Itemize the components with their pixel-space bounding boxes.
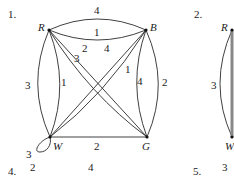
vertex-g <box>145 135 148 138</box>
weight-r-w-inner: 1 <box>61 76 67 88</box>
weight-b-w-1: 4 <box>104 42 110 54</box>
figure-4: 4. 2 4 <box>8 161 94 176</box>
figure-5: 5. 3 <box>193 161 228 176</box>
weight-r-w: 3 <box>211 79 217 91</box>
weight-b-w-2: 1 <box>125 63 131 75</box>
figure-number: 1. <box>8 8 17 20</box>
edge-r-w-outer <box>38 30 50 137</box>
weight-r-b-inner: 1 <box>94 26 100 38</box>
vertex-b <box>144 28 147 31</box>
vertex-label-b: B <box>150 21 157 33</box>
edge-r-w-outer <box>220 30 232 137</box>
figure-number: 5. <box>193 165 202 176</box>
vertex-label-r: R <box>220 21 228 33</box>
figure-number: 2. <box>194 8 203 20</box>
vertex-r <box>47 28 50 31</box>
weight-b-g-outer: 2 <box>162 76 168 88</box>
edge-b-g-outer <box>146 30 158 137</box>
weight-b-g-inner: 4 <box>137 75 143 87</box>
figure-number: 4. <box>8 165 17 176</box>
vertex-label-w: W <box>225 140 234 152</box>
vertex-w <box>48 135 51 138</box>
figure-1: 1. R B W G 4 1 3 1 4 2 2 <box>8 4 168 160</box>
vertex-label-g: G <box>142 140 150 152</box>
weight-label: 3 <box>222 161 228 173</box>
weight-w-loop: 3 <box>26 148 32 160</box>
weight-w-g: 2 <box>94 140 100 152</box>
graph-diagram: 1. R B W G 4 1 3 1 4 2 2 <box>0 0 234 176</box>
vertex-label-r: R <box>37 21 45 33</box>
weight-r-g-2: 3 <box>74 52 80 64</box>
weight-label: 2 <box>30 161 36 173</box>
vertex-w <box>230 135 233 138</box>
weight-label: 4 <box>88 161 94 173</box>
weight-r-w-outer: 3 <box>25 79 31 91</box>
vertex-r <box>230 28 233 31</box>
edge-w-loop <box>37 137 51 152</box>
edge-r-w-inner <box>49 30 60 137</box>
vertex-label-w: W <box>53 140 63 152</box>
weight-r-b-outer: 4 <box>94 4 100 16</box>
weight-r-g-1: 2 <box>82 42 88 54</box>
figure-2: 2. R W 3 <box>194 8 234 152</box>
